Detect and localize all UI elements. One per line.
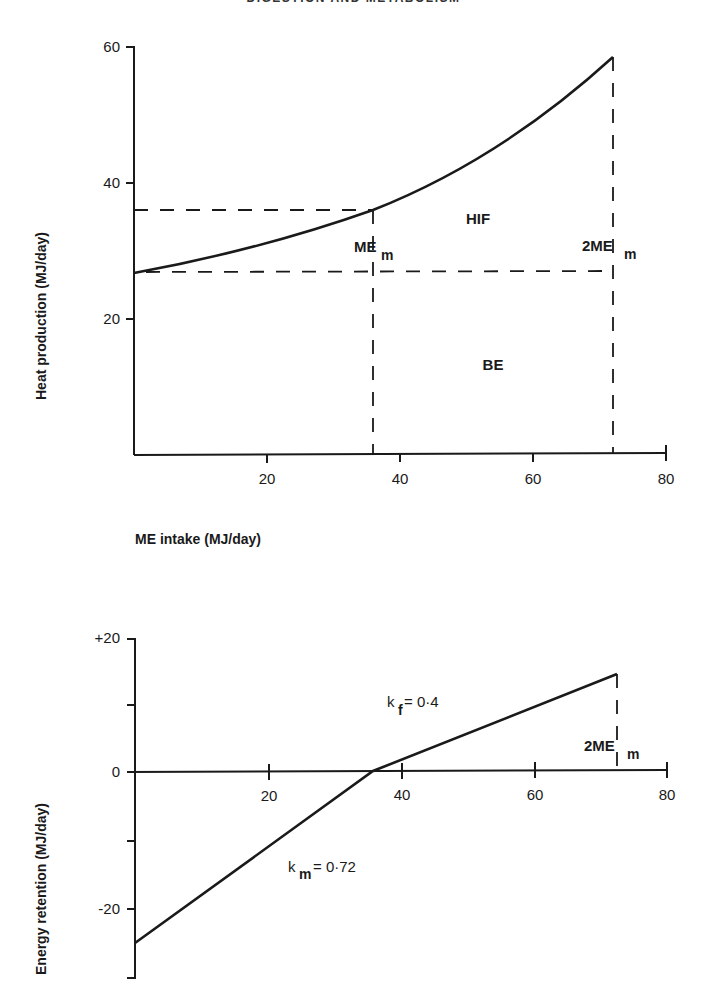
- kf-label-value: = 0·4: [404, 693, 439, 710]
- bottom-y-tick-label-plus20: +20: [95, 629, 120, 646]
- x-axis-title: ME intake (MJ/day): [135, 531, 261, 547]
- top-y-tick-label-60: 60: [103, 38, 120, 55]
- bottom-x-tick-label-20: 20: [261, 787, 278, 804]
- top-y-tick-label-20: 20: [103, 310, 120, 327]
- twomem-label-top: 2ME m: [582, 237, 636, 262]
- twomem-label-bottom-main: 2ME: [584, 737, 615, 754]
- mem-label-sub: m: [381, 247, 393, 263]
- km-label: k m = 0·72: [288, 858, 356, 882]
- bottom-x-tick-label-60: 60: [527, 786, 544, 803]
- energy-retention-chart: +20 0 -20 20 40 60 80 k f = 0·4 k m = 0·…: [33, 629, 675, 979]
- figure: 60 40 20 20 40 60 80 HIF BE ME m 2ME m H…: [0, 0, 707, 987]
- km-label-value: = 0·72: [313, 858, 356, 875]
- top-x-tick-label-60: 60: [525, 470, 542, 487]
- be-label: BE: [483, 356, 504, 373]
- bottom-y-tick-label-0: 0: [112, 763, 120, 780]
- bottom-x-tick-label-80: 80: [659, 786, 676, 803]
- baseline-horizontal-dash: [146, 271, 613, 272]
- mem-label: ME m: [354, 238, 393, 263]
- twomem-label-bottom: 2ME m: [584, 737, 639, 762]
- twomem-label-top-sub: m: [624, 246, 636, 262]
- bottom-y-tick-label-minus20: -20: [98, 900, 120, 917]
- bottom-x-axis: [127, 770, 667, 772]
- kf-label-main: k: [387, 693, 395, 710]
- hif-label: HIF: [466, 210, 490, 227]
- top-y-tick-label-40: 40: [103, 174, 120, 191]
- top-x-tick-label-80: 80: [658, 470, 675, 487]
- kf-label: k f = 0·4: [387, 693, 439, 718]
- km-label-sub: m: [299, 866, 311, 882]
- kf-label-sub: f: [398, 702, 403, 718]
- bottom-x-tick-label-40: 40: [394, 786, 411, 803]
- twomem-label-top-main: 2ME: [582, 237, 613, 254]
- energy-retention-line: [135, 674, 617, 943]
- top-x-tick-label-40: 40: [392, 470, 409, 487]
- top-y-axis-title: Heat production (MJ/day): [33, 232, 49, 400]
- twomem-label-bottom-sub: m: [627, 746, 639, 762]
- heat-production-chart: 60 40 20 20 40 60 80 HIF BE ME m 2ME m H…: [33, 38, 674, 547]
- top-x-tick-label-20: 20: [259, 470, 276, 487]
- mem-label-main: ME: [354, 238, 377, 255]
- km-label-main: k: [288, 858, 296, 875]
- bottom-y-axis-title: Energy retention (MJ/day): [33, 803, 49, 975]
